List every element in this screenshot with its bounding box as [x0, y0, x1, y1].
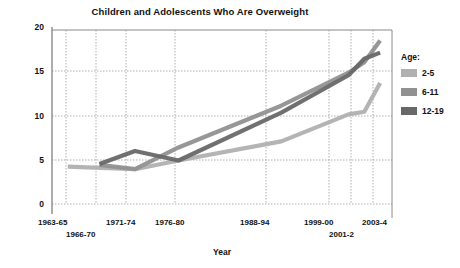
y-tick-label: 10 — [14, 111, 44, 121]
x-tick-label: 1976-80 — [155, 218, 184, 227]
legend-item-label: 6-11 — [422, 87, 439, 97]
plot-area — [0, 0, 460, 268]
legend-item: 12-19 — [401, 106, 459, 116]
x-tick-label: 1966-70 — [66, 230, 95, 239]
y-tick-label: 20 — [14, 22, 44, 32]
legend-swatch-icon — [401, 69, 417, 77]
y-tick-label: 0 — [14, 199, 44, 209]
chart-title: Children and Adolescents Who Are Overwei… — [0, 6, 400, 17]
legend-item: 2-5 — [401, 68, 459, 78]
x-tick-label: 1988-94 — [240, 218, 269, 227]
legend-swatch-icon — [401, 88, 417, 96]
legend-swatch-icon — [401, 107, 417, 115]
legend-item-label: 12-19 — [422, 106, 444, 116]
y-tick-label: 15 — [14, 66, 44, 76]
x-tick-label: 1999-00 — [304, 218, 333, 227]
legend-title: Age: — [401, 52, 459, 62]
x-tick-label: 1971-74 — [106, 218, 135, 227]
legend-item: 6-11 — [401, 87, 459, 97]
y-tick-label: 5 — [14, 155, 44, 165]
x-tick-label: 1963-65 — [38, 218, 67, 227]
chart-legend: Age: 2-56-1112-19 — [401, 52, 459, 125]
x-tick-label: 2001-2 — [329, 230, 354, 239]
x-axis-title: Year — [52, 247, 392, 257]
chart-container: Children and Adolescents Who Are Overwei… — [0, 0, 460, 268]
x-tick-label: 2003-4 — [362, 218, 387, 227]
legend-item-label: 2-5 — [422, 68, 434, 78]
